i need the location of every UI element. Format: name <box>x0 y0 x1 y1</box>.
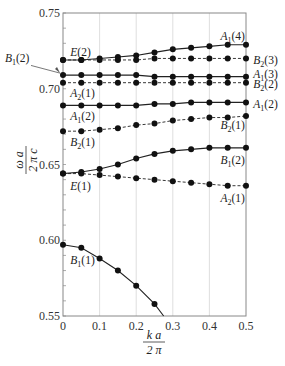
data-point <box>133 72 139 78</box>
data-point <box>115 174 121 180</box>
data-point <box>60 72 66 78</box>
data-point <box>97 166 103 172</box>
data-point <box>97 80 103 86</box>
svg-text:2 π: 2 π <box>146 343 162 357</box>
data-point <box>243 99 249 105</box>
data-point <box>225 55 231 61</box>
series-b22 <box>60 80 249 86</box>
band-label: A1(2) <box>69 110 95 125</box>
data-point <box>170 118 176 124</box>
data-point <box>133 155 139 161</box>
band-diagram-chart: 0.550.600.650.700.75 00.10.20.30.40.5 E(… <box>0 0 285 366</box>
x-tick-label: 0.2 <box>129 319 144 333</box>
band-label: B2(1) <box>220 119 245 134</box>
data-point <box>60 102 66 108</box>
band-label: B2(1) <box>70 136 95 151</box>
data-point <box>115 57 121 63</box>
data-point <box>97 172 103 178</box>
data-point <box>115 125 121 131</box>
data-point <box>152 49 158 55</box>
svg-text:k a: k a <box>147 328 161 342</box>
band-label: A2(1) <box>69 87 95 102</box>
data-point <box>206 115 212 121</box>
data-point <box>60 171 66 177</box>
data-point <box>188 146 194 152</box>
data-point <box>170 101 176 107</box>
data-point <box>115 80 121 86</box>
data-point <box>243 42 249 48</box>
data-point <box>152 177 158 183</box>
band-label: A1(2) <box>252 98 278 113</box>
band-label: B2(2) <box>253 78 278 93</box>
data-point <box>188 99 194 105</box>
band-label: E(2) <box>69 46 91 59</box>
data-point <box>225 145 231 151</box>
data-point <box>206 43 212 49</box>
x-tick-label: 0.3 <box>165 319 180 333</box>
data-point <box>60 128 66 134</box>
data-point <box>78 102 84 108</box>
svg-text:ω a: ω a <box>12 151 26 168</box>
data-point <box>152 151 158 157</box>
data-point <box>115 268 121 274</box>
series-a13 <box>60 72 249 80</box>
data-point <box>60 80 66 86</box>
data-point <box>188 45 194 51</box>
x-tick-label: 0 <box>60 319 66 333</box>
data-point <box>133 175 139 181</box>
data-point <box>225 183 231 189</box>
data-point <box>170 148 176 154</box>
data-point <box>133 122 139 128</box>
data-point <box>225 74 231 80</box>
data-point <box>115 72 121 78</box>
data-point <box>188 55 194 61</box>
data-point <box>243 145 249 151</box>
y-tick-label: 0.60 <box>39 233 60 247</box>
data-point <box>170 74 176 80</box>
x-tick-label: 0.1 <box>92 319 107 333</box>
band-label: B1(1) <box>70 254 95 269</box>
data-point <box>97 127 103 133</box>
series-b11 <box>60 242 164 316</box>
data-point <box>152 301 158 307</box>
band-label: B1(2) <box>220 154 245 169</box>
band-label: B1(2) <box>5 52 30 67</box>
y-tick-label: 0.65 <box>39 158 60 172</box>
data-point <box>225 80 231 86</box>
data-point <box>206 99 212 105</box>
data-point <box>97 57 103 63</box>
data-point <box>206 74 212 80</box>
data-point <box>206 145 212 151</box>
data-point <box>78 171 84 177</box>
y-tick-label: 0.75 <box>39 6 60 20</box>
x-tick-label: 0.5 <box>239 319 254 333</box>
y-axis-ticks: 0.550.600.650.700.75 <box>39 6 66 323</box>
band-label: E(1) <box>69 180 91 193</box>
data-point <box>206 55 212 61</box>
data-point <box>133 57 139 63</box>
data-point <box>133 283 139 289</box>
data-point <box>152 101 158 107</box>
data-point <box>97 102 103 108</box>
x-tick-label: 0.4 <box>202 319 217 333</box>
y-axis-label: ω a2 π c <box>12 146 40 174</box>
data-point <box>188 180 194 186</box>
data-point <box>170 46 176 52</box>
data-point <box>243 74 249 80</box>
band-label: A1(4) <box>219 30 245 45</box>
data-point <box>152 121 158 127</box>
data-point <box>152 80 158 86</box>
data-point <box>243 113 249 119</box>
data-point <box>152 74 158 80</box>
data-point <box>78 72 84 78</box>
y-tick-label: 0.55 <box>39 309 60 323</box>
data-point <box>170 80 176 86</box>
data-point <box>170 55 176 61</box>
data-point <box>78 128 84 134</box>
data-point <box>188 74 194 80</box>
data-point <box>115 162 121 168</box>
band-label: A2(1) <box>219 192 245 207</box>
data-point <box>60 242 66 248</box>
series-a12 <box>60 99 249 108</box>
data-point <box>206 181 212 187</box>
